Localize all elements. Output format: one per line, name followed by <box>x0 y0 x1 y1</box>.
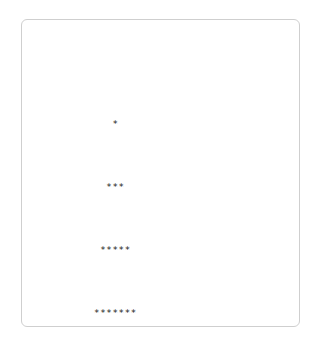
ascii-row: *** <box>21 177 254 198</box>
ascii-art-inner: * *** ***** ******* ********* **********… <box>21 72 254 327</box>
ascii-output-panel: * *** ***** ******* ********* **********… <box>21 19 300 327</box>
app-root: * *** ***** ******* ********* **********… <box>0 0 319 344</box>
ascii-row: ***** <box>21 240 254 261</box>
ascii-row: ******* <box>21 303 254 324</box>
ascii-art-pyramid: * *** ***** ******* ********* **********… <box>22 30 299 327</box>
ascii-row: * <box>21 114 254 135</box>
